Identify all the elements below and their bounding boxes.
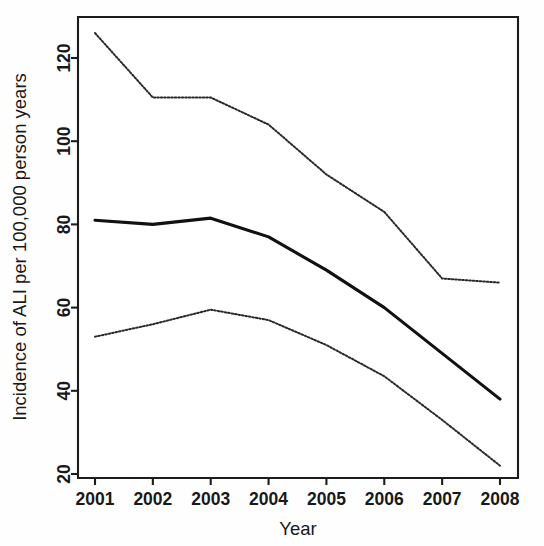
x-axis-tick-label: 2004 [249, 489, 288, 509]
x-axis-tick-label: 2003 [191, 489, 230, 509]
y-axis-tick-label: 20 [54, 464, 74, 484]
x-axis-tick-label: 2008 [481, 489, 520, 509]
x-axis-title: Year [279, 518, 316, 539]
y-axis-tick-labels: 20406080100120 [54, 43, 74, 484]
plot-panel-background [78, 17, 518, 478]
x-axis-tick-labels: 20012002200320042005200620072008 [76, 489, 520, 509]
y-axis-tick-label: 40 [54, 381, 74, 401]
chart-figure: 20406080100120 2001200220032004200520062… [0, 0, 544, 546]
y-axis-tick-label: 60 [54, 298, 74, 318]
x-axis-tick-label: 2006 [365, 489, 404, 509]
x-axis-tick-label: 2007 [423, 489, 462, 509]
x-axis-tick-label: 2002 [133, 489, 172, 509]
y-axis-tick-label: 80 [54, 214, 74, 234]
y-axis-title: Incidence of ALI per 100,000 person year… [9, 73, 30, 421]
line-chart: 20406080100120 2001200220032004200520062… [0, 0, 544, 546]
y-axis-tick-label: 100 [54, 126, 74, 155]
x-axis-tick-label: 2001 [76, 489, 115, 509]
x-axis-tick-label: 2005 [307, 489, 346, 509]
y-axis-tick-label: 120 [54, 43, 74, 72]
